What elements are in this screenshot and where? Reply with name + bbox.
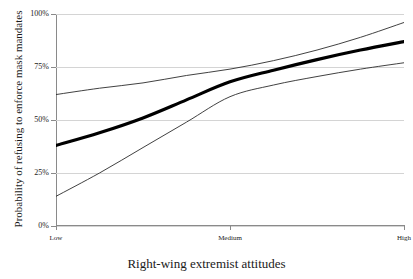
y-axis-tick-label: 0% xyxy=(38,222,49,230)
x-axis-tick-label: High xyxy=(397,234,411,242)
x-axis-tick-label: Low xyxy=(50,234,63,242)
curve-upper-confidence-bound xyxy=(56,22,404,94)
y-axis-tick-label: 100% xyxy=(30,10,49,18)
plot-panel xyxy=(56,14,404,226)
x-axis-tick xyxy=(404,225,405,230)
y-axis-tick-label: 25% xyxy=(34,169,49,177)
y-axis-title: Probability of refusing to enforce mask … xyxy=(11,4,25,234)
figure: Probability of refusing to enforce mask … xyxy=(0,0,413,279)
data-curves xyxy=(56,14,404,226)
y-axis-tick-label: 50% xyxy=(34,116,49,124)
x-axis-tick-label: Medium xyxy=(218,234,242,242)
curve-predicted-probability xyxy=(56,42,404,146)
y-axis-tick-label: 75% xyxy=(34,63,49,71)
x-axis-title: Right-wing extremist attitudes xyxy=(0,256,413,271)
